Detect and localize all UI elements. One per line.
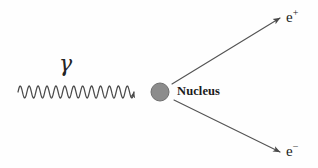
electron-label: e− xyxy=(286,144,298,159)
nucleus-circle xyxy=(151,83,169,101)
electron-arrow xyxy=(174,100,280,152)
diagram-canvas xyxy=(0,0,318,168)
positron-particle-symbol: e xyxy=(286,9,293,25)
electron-particle-symbol: e xyxy=(286,143,293,159)
nucleus-text-label: Nucleus xyxy=(177,85,220,98)
positron-charge-superscript: + xyxy=(293,7,299,18)
electron-charge-superscript: − xyxy=(293,141,299,152)
pair-production-diagram: γ Nucleus e+ e− xyxy=(0,0,318,168)
photon-wavy-line xyxy=(18,86,134,98)
positron-label: e+ xyxy=(286,10,298,25)
positron-arrow xyxy=(172,18,280,84)
gamma-symbol-label: γ xyxy=(59,53,72,75)
